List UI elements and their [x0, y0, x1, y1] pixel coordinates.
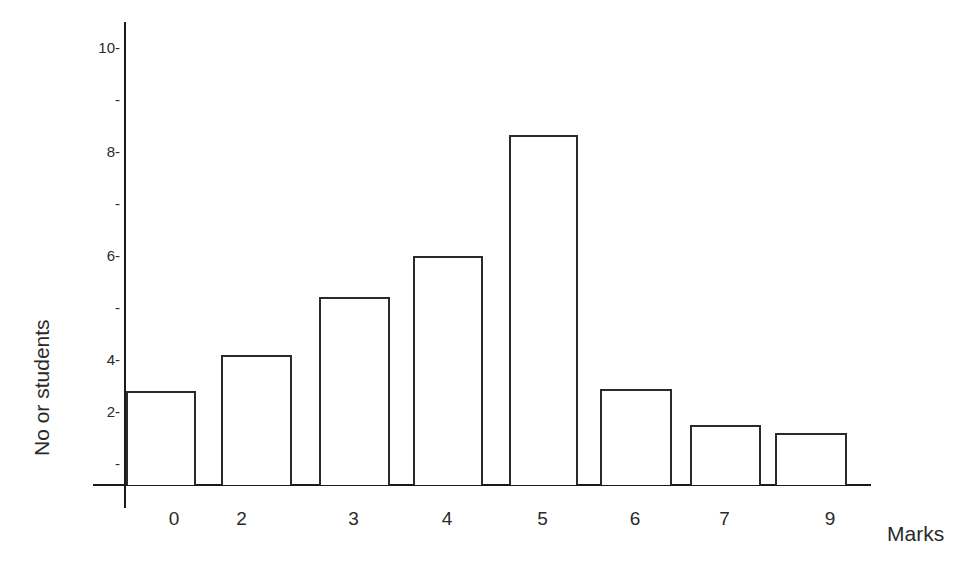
x-axis-label: Marks: [887, 522, 944, 546]
bar-7: [690, 425, 761, 485]
bar-5: [509, 135, 578, 485]
y-tick-label: 8-: [80, 144, 120, 159]
x-tick-label: 0: [154, 508, 194, 530]
bar-4: [413, 256, 483, 485]
x-tick-label: 9: [810, 508, 850, 530]
bar-0: [126, 391, 196, 485]
y-tick-label: 4-: [80, 352, 120, 367]
x-tick-label: 4: [427, 508, 467, 530]
y-tick-label: 10-: [80, 40, 120, 55]
y-tick-label: -: [80, 300, 120, 315]
y-tick-label: -: [80, 196, 120, 211]
y-tick-label: 2-: [80, 404, 120, 419]
x-tick-label: 6: [615, 508, 655, 530]
y-tick-label: -: [80, 456, 120, 471]
y-axis-label: No or students: [30, 319, 54, 456]
bar-2: [221, 355, 292, 485]
bar-3: [319, 297, 390, 485]
y-tick-label: -: [80, 92, 120, 107]
y-tick-label: 6-: [80, 248, 120, 263]
x-tick-label: 3: [334, 508, 374, 530]
x-tick-label: 7: [705, 508, 745, 530]
bar-6: [600, 389, 672, 485]
x-tick-label: 5: [523, 508, 563, 530]
x-tick-label: 2: [222, 508, 262, 530]
bar-9: [775, 433, 847, 485]
